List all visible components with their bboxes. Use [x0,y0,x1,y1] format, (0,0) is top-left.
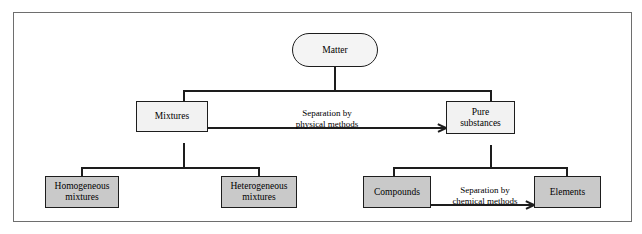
edge-pure-substances-bar-right [490,167,568,169]
node-heterogeneous-mixtures-label: Heterogeneous mixtures [229,181,290,202]
edge-mixtures-bar-right [183,167,260,169]
edge-label-physical-separation: Separation by physical methods [272,108,382,131]
edge-pure-substances-stem [490,145,492,168]
node-compounds-label: Compounds [372,187,422,198]
node-homogeneous-mixtures[interactable]: Homogeneous mixtures [45,176,119,208]
edge-mixtures-stem [183,143,185,168]
figure-root: Separation by physical methods Separatio… [0,0,642,234]
node-heterogeneous-mixtures[interactable]: Heterogeneous mixtures [221,176,297,208]
node-matter[interactable]: Matter [292,33,378,67]
node-compounds[interactable]: Compounds [363,176,431,208]
edge-level1-bar [183,90,336,92]
node-pure-substances[interactable]: Pure substances [446,101,515,134]
edge-pure-substances-bar [393,167,492,169]
node-mixtures-label: Mixtures [153,111,191,122]
node-pure-substances-label: Pure substances [458,107,503,128]
node-homogeneous-mixtures-label: Homogeneous mixtures [53,181,112,202]
node-mixtures[interactable]: Mixtures [136,101,208,132]
node-elements[interactable]: Elements [534,176,601,208]
edge-matter-stem [334,67,336,92]
edge-label-chemical-separation: Separation by chemical methods [429,185,541,208]
node-elements-label: Elements [548,187,587,198]
edge-level1-bar-right [334,90,492,92]
edge-mixtures-bar [81,167,185,169]
node-matter-label: Matter [320,45,349,56]
figure-frame: Separation by physical methods Separatio… [13,12,632,222]
